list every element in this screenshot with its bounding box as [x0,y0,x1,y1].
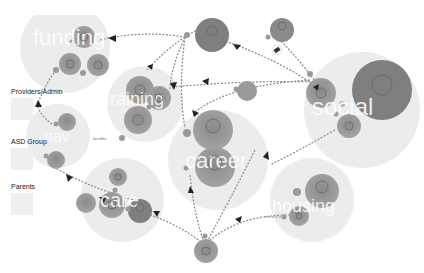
nav-side-label: locnoffer [93,137,106,141]
legend: Providers/Admin [11,88,62,120]
legend-parents: Parents [11,183,35,215]
edge-hub-career [182,37,186,128]
legend-swatch [11,148,33,170]
node-dot[interactable] [80,70,86,76]
node-hub[interactable] [184,32,190,38]
node[interactable] [76,193,96,213]
legend-asd: ASD Group [11,138,47,170]
legend-label: Providers/Admin [11,88,62,95]
bottom-nodes [194,234,218,264]
node[interactable] [124,106,152,134]
legend-label: Parents [11,183,35,190]
node-hub2[interactable] [266,35,271,40]
label-funding: funding [33,25,105,50]
label-nav: nav [44,128,70,145]
node-dot[interactable] [119,135,125,141]
node-standalone[interactable] [237,81,257,101]
node-bcit[interactable] [195,18,229,52]
legend-item-asd-group[interactable]: ASD Group [11,138,47,170]
label-career: career [185,148,247,173]
legend-item-parents[interactable]: Parents [11,183,35,215]
node-dot[interactable] [234,87,239,92]
node-dot[interactable] [307,71,313,77]
legend-label: ASD Group [11,138,47,145]
node-dot[interactable] [183,129,191,137]
legend-swatch [11,98,33,120]
node-bottom[interactable] [194,239,218,263]
node-dot[interactable] [293,188,301,196]
node[interactable] [87,54,109,76]
node[interactable] [47,151,65,169]
arrow-icon [235,216,242,223]
edge-job-social [276,36,318,85]
bus-icon [272,45,282,55]
top-nodes [184,18,294,101]
arrow-icon [202,78,209,85]
node-dot[interactable] [54,122,59,127]
label-social: social [312,93,373,120]
node[interactable] [59,53,81,75]
node-dot[interactable] [53,67,59,73]
label-housing: housing [272,196,335,216]
node-dot[interactable] [203,234,208,239]
bubble-network-diagram: funding training nav social career care … [0,0,424,273]
legend-item-providers[interactable]: Providers/Admin [11,88,62,120]
legend-swatch [11,193,33,215]
label-care: care [100,189,139,211]
node[interactable] [109,168,127,186]
node[interactable] [193,110,233,150]
